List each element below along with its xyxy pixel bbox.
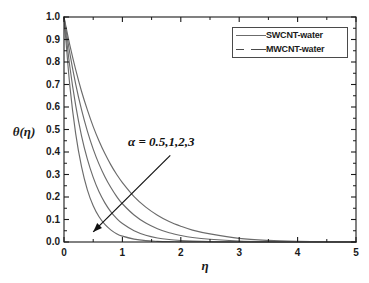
legend-label-mwcnt: MWCNT-water	[266, 44, 324, 54]
x-tick-label: 1	[107, 247, 137, 258]
x-axis-title: η	[195, 258, 215, 274]
y-tick-label: 0.0	[18, 236, 60, 247]
y-tick-label: 0.4	[18, 146, 60, 157]
y-tick-label: 0.2	[18, 191, 60, 202]
x-tick-label: 2	[166, 247, 196, 258]
legend-label-swcnt: SWCNT-water	[266, 30, 323, 40]
y-tick-label: 0.5	[18, 124, 60, 135]
alpha-annotation-label: α = 0.5,1,2,3	[128, 134, 195, 150]
x-tick-label: 3	[224, 247, 254, 258]
legend-item-mwcnt: MWCNT-water	[233, 42, 347, 56]
y-tick-label: 0.1	[18, 214, 60, 225]
y-tick-label: 0.9	[18, 34, 60, 45]
x-tick-label: 0	[49, 247, 79, 258]
x-tick-label: 5	[341, 247, 369, 258]
y-tick-label: 0.7	[18, 79, 60, 90]
y-tick-label: 0.6	[18, 101, 60, 112]
legend-item-swcnt: SWCNT-water	[233, 28, 347, 42]
y-tick-label: 0.3	[18, 169, 60, 180]
annotation-arrow	[93, 155, 170, 232]
chart-figure: θ(η) η α = 0.5,1,2,3 SWCNT-water MWCNT-w…	[0, 0, 369, 283]
x-tick-label: 4	[283, 247, 313, 258]
y-tick-label: 0.8	[18, 56, 60, 67]
legend-line-dashed-icon	[236, 44, 266, 54]
y-tick-label: 1.0	[18, 11, 60, 22]
legend-line-solid-icon	[236, 30, 266, 40]
legend-box: SWCNT-water MWCNT-water	[232, 27, 348, 58]
